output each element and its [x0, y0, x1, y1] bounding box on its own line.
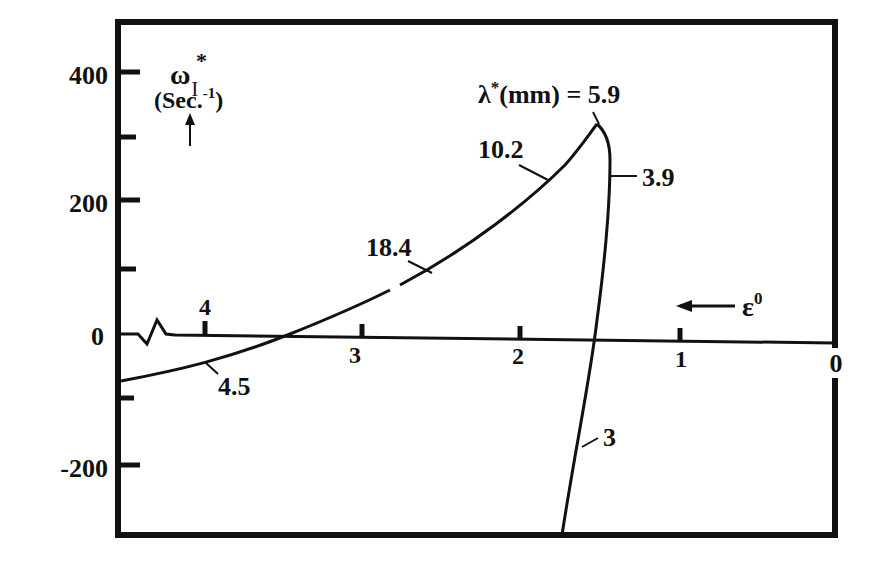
up-arrow-icon: [185, 113, 195, 125]
y-axis-ticks: [118, 72, 140, 465]
svg-text:(Sec.-1): (Sec.-1): [154, 85, 223, 113]
y-tick-label-0: 0: [91, 322, 104, 351]
annotation-peak: λ*(mm) = 5.9: [478, 78, 620, 109]
curve-descending-branch: [562, 124, 610, 535]
chart: 400 200 0 -200 4 3 2 1 0 0 ε0 ωI * (Sec.…: [0, 0, 880, 566]
y-tick-label-minus-200: -200: [60, 454, 108, 483]
annotation-10-2: 10.2: [478, 135, 524, 164]
zero-baseline: [121, 320, 835, 344]
y-tick-label-200: 200: [69, 189, 108, 218]
x-axis-label: ε0: [676, 289, 762, 322]
y-axis-label: ωI * (Sec.-1): [154, 48, 223, 146]
left-arrow-icon: [676, 300, 692, 312]
x-tick-label-4: 4: [199, 294, 211, 320]
annotation-3-9: 3.9: [642, 163, 675, 192]
y-tick-label-400: 400: [69, 61, 108, 90]
plot-frame: [118, 22, 835, 535]
annotation-leaders: [206, 112, 637, 447]
svg-text:ε0: ε0: [742, 289, 762, 322]
svg-text:*: *: [196, 48, 207, 73]
annotation-3: 3: [603, 423, 616, 452]
annotation-4-5: 4.5: [218, 372, 251, 401]
x-tick-label-1: 1: [675, 346, 687, 372]
annotation-18-4: 18.4: [366, 233, 412, 262]
x-tick-label-2: 2: [512, 343, 524, 369]
x-tick-label-0-overlay: 0: [830, 349, 843, 378]
x-tick-label-3: 3: [349, 342, 361, 368]
